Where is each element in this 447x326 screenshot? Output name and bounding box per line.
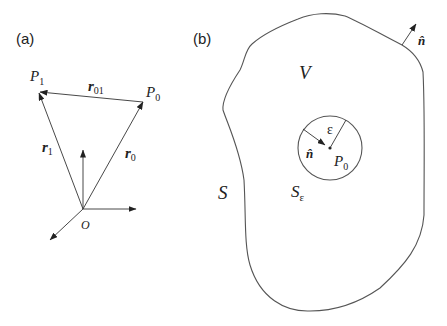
outer-normal-label: n̂ [418, 33, 425, 48]
vector-r0-label: r0 [125, 145, 136, 163]
inner-normal-label: n̂ [306, 146, 313, 161]
axis-diag-arrow [50, 209, 83, 240]
outer-normal-arrow [402, 24, 416, 45]
panel-a: (a) P1 P0 r01 r1 r0 O [16, 30, 160, 240]
point-p0-label: P0 [145, 84, 160, 103]
center-p0-label: P0 [333, 153, 348, 172]
panel-b: (b) n̂ V S ε n̂ P0 Sε [193, 14, 425, 311]
vector-r1-label: r1 [42, 139, 53, 157]
vector-r01-label: r01 [88, 78, 104, 96]
inner-normal-arrow [303, 129, 325, 145]
panel-b-label: (b) [193, 30, 211, 47]
origin-label: O [81, 218, 90, 232]
surface-label: S [218, 182, 228, 203]
panel-a-label: (a) [16, 30, 34, 47]
radius-label: ε [327, 122, 333, 137]
small-sphere-label: Sε [291, 182, 305, 203]
volume-label: V [299, 62, 313, 83]
figure: (a) P1 P0 r01 r1 r0 O (b) [0, 0, 447, 326]
region-boundary-s [223, 14, 424, 311]
point-p1-label: P1 [29, 68, 44, 87]
